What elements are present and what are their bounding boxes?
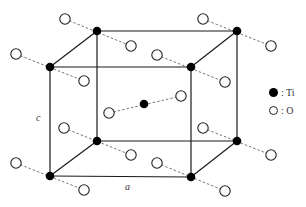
oxygen-atom — [126, 41, 136, 51]
oxygen-atom — [198, 123, 208, 133]
titanium-atom — [187, 63, 196, 72]
o-atom-icon — [269, 106, 278, 115]
crystal-structure-diagram — [0, 0, 306, 207]
ti-atom-icon — [269, 88, 278, 97]
oxygen-atom — [11, 158, 21, 168]
legend-item-o: : O — [269, 105, 294, 116]
titanium-atom — [46, 172, 55, 181]
titanium-atom — [93, 27, 102, 36]
oxygen-atom — [126, 150, 136, 160]
axis-label-c: c — [36, 112, 40, 123]
cell-edge — [191, 141, 237, 177]
titanium-atom — [93, 137, 102, 146]
titanium-atom — [140, 100, 149, 109]
oxygen-atom — [198, 14, 208, 24]
oxygen-atom — [104, 108, 114, 118]
titanium-atom — [233, 137, 242, 146]
oxygen-atom — [79, 185, 89, 195]
oxygen-atom — [220, 186, 230, 196]
cell-edge — [50, 141, 97, 176]
oxygen-atom — [79, 76, 89, 86]
oxygen-atom — [60, 14, 70, 24]
legend-label-o: : O — [281, 105, 294, 116]
cell-edge — [50, 31, 97, 67]
cell-edge — [191, 31, 237, 67]
oxygen-atom — [176, 91, 186, 101]
oxygen-atom — [220, 77, 230, 87]
oxygen-atom — [152, 50, 162, 60]
legend-item-ti: : Ti — [269, 87, 295, 98]
oxygen-atom — [266, 41, 276, 51]
axis-label-a: a — [125, 181, 130, 192]
cell-edge — [50, 176, 191, 177]
legend-label-ti: : Ti — [281, 87, 295, 98]
titanium-atom — [233, 27, 242, 36]
titanium-atom — [187, 173, 196, 182]
oxygen-atom — [152, 158, 162, 168]
oxygen-atom — [266, 150, 276, 160]
titanium-atom — [46, 63, 55, 72]
oxygen-atom — [59, 123, 69, 133]
oxygen-atom — [11, 49, 21, 59]
